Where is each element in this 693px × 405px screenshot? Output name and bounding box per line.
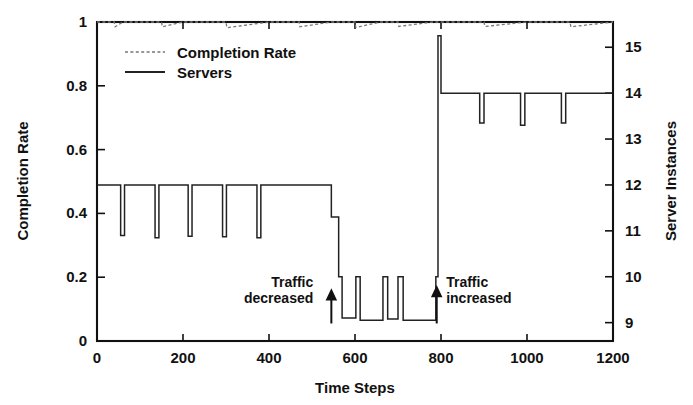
y-tick-label: 0 — [79, 332, 87, 349]
y2-tick-label: 10 — [625, 268, 642, 285]
annotation-group: TrafficdecreasedTrafficincreased — [244, 274, 512, 324]
x-tick-label: 600 — [342, 349, 367, 366]
legend-label-servers: Servers — [177, 64, 232, 81]
annotation-arrowhead-traffic-increased — [433, 287, 441, 296]
y2-tick-label: 15 — [625, 38, 642, 55]
x-tick-label: 200 — [170, 349, 195, 366]
y2-axis-ticks: 9101112131415 — [605, 38, 642, 330]
annotation-label-traffic-decreased: Traffic — [271, 274, 313, 290]
x-tick-label: 1000 — [510, 349, 543, 366]
plot-frame — [97, 22, 613, 341]
x-tick-label: 1200 — [596, 349, 629, 366]
y-tick-label: 0.2 — [66, 268, 87, 285]
y2-tick-label: 9 — [625, 314, 633, 331]
series-line-servers — [97, 36, 613, 321]
x-axis-title: Time Steps — [315, 379, 395, 396]
y-tick-label: 0.8 — [66, 77, 87, 94]
chart-canvas: 020040060080010001200 00.20.40.60.81 910… — [0, 0, 693, 405]
x-tick-label: 400 — [256, 349, 281, 366]
y2-tick-label: 13 — [625, 130, 642, 147]
y2-axis-title: Server Instances — [662, 121, 679, 241]
y2-tick-label: 12 — [625, 176, 642, 193]
y-tick-label: 0.6 — [66, 141, 87, 158]
y-axis-title: Completion Rate — [14, 121, 31, 240]
y-tick-label: 0.4 — [66, 204, 88, 221]
x-axis-ticks: 020040060080010001200 — [93, 22, 630, 366]
legend-label-completion-rate: Completion Rate — [177, 44, 296, 61]
data-series-group — [97, 22, 613, 320]
y2-tick-label: 14 — [625, 84, 642, 101]
annotation-label-traffic-increased: increased — [446, 290, 511, 306]
y-tick-label: 1 — [79, 13, 87, 30]
annotation-arrowhead-traffic-decreased — [327, 291, 335, 300]
chart-legend: Completion RateServers — [125, 44, 296, 81]
y2-tick-label: 11 — [625, 222, 641, 239]
x-tick-label: 0 — [93, 349, 101, 366]
annotation-label-traffic-decreased: decreased — [244, 290, 313, 306]
y-axis-ticks: 00.20.40.60.81 — [66, 13, 105, 349]
chart-figure: 020040060080010001200 00.20.40.60.81 910… — [0, 0, 693, 405]
annotation-label-traffic-increased: Traffic — [446, 274, 488, 290]
x-tick-label: 800 — [428, 349, 453, 366]
